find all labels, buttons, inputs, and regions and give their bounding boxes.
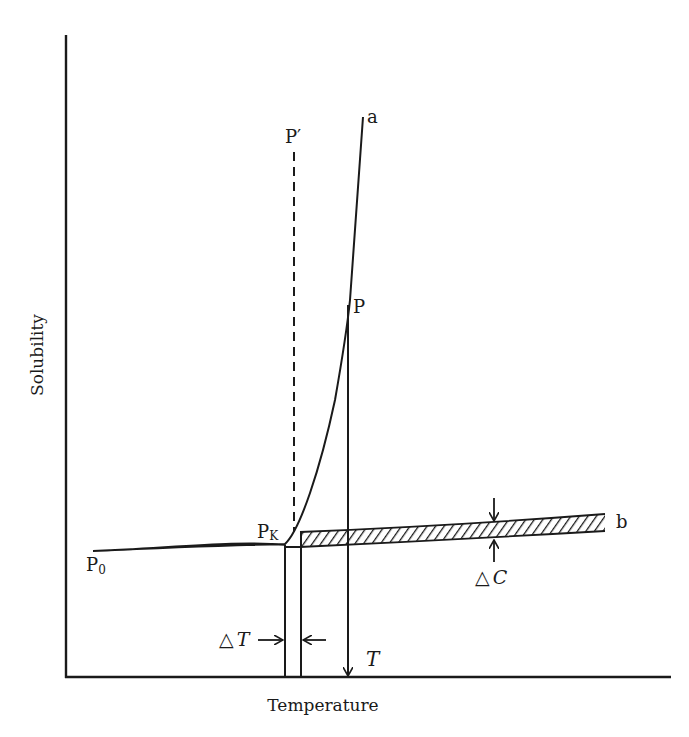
delta-t-symbol: △ [219,628,234,650]
solubility-curve-a [93,117,363,551]
t-label: T [366,647,381,671]
pk-main: P [257,521,269,542]
pk-label: PK [257,521,279,543]
x-axis-label: Temperature [267,695,378,715]
curve-b-label: b [616,511,628,532]
solubility-diagram: Temperature Solubility a b P′ P PK P0 △T… [0,0,689,737]
delta-c-symbol: △ [475,566,490,588]
curve-a-label: a [367,106,378,127]
delta-t-var: T [237,628,251,650]
p0-main: P [86,554,98,575]
p0-label: P0 [86,554,106,577]
p-prime-label: P′ [285,126,301,147]
delta-t-label: △T [219,628,251,650]
delta-c-label: △C [475,566,508,588]
p0-subscript: 0 [98,563,106,577]
pk-subscript: K [269,529,279,543]
p-label: P [353,296,365,317]
delta-c-var: C [493,566,508,588]
y-axis-label: Solubility [27,314,47,396]
